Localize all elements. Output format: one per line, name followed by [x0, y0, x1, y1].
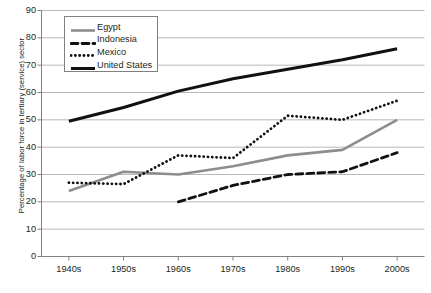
series-line-egypt	[69, 120, 397, 191]
legend-item-label: Egypt	[97, 23, 121, 32]
caption-fragment	[0, 284, 431, 293]
legend-swatch-icon	[70, 35, 96, 46]
legend-swatch-icon	[70, 47, 96, 58]
series-line-indonesia	[178, 153, 397, 202]
legend: EgyptIndonesiaMexicoUnited States	[64, 16, 158, 72]
line-chart: Percentage of labor force in tertiary (s…	[0, 0, 431, 293]
legend-item-label: United States	[97, 61, 152, 70]
legend-item-indonesia[interactable]: Indonesia	[70, 34, 137, 47]
legend-swatch-icon	[70, 60, 96, 71]
legend-item-united-states[interactable]: United States	[70, 59, 152, 72]
legend-item-egypt[interactable]: Egypt	[70, 21, 121, 34]
legend-item-label: Mexico	[97, 48, 126, 57]
legend-item-mexico[interactable]: Mexico	[70, 46, 126, 59]
series-line-mexico	[69, 101, 397, 184]
legend-swatch-icon	[70, 22, 96, 33]
legend-item-label: Indonesia	[97, 35, 137, 44]
